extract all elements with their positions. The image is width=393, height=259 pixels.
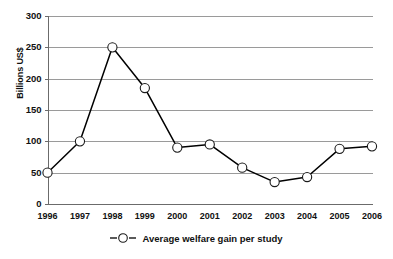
data-point-1998 <box>108 43 117 52</box>
data-point-2004 <box>303 172 312 181</box>
data-point-1997 <box>75 137 84 146</box>
data-point-2002 <box>238 163 247 172</box>
line-chart: Billions US$ 050100150200250300 19961997… <box>0 0 393 259</box>
data-point-1999 <box>140 83 149 92</box>
data-point-2006 <box>367 142 376 151</box>
legend-open-circle-marker-icon <box>110 232 136 244</box>
data-point-2001 <box>205 140 214 149</box>
legend-label: Average welfare gain per study <box>142 233 282 244</box>
data-point-2005 <box>335 144 344 153</box>
chart-legend: Average welfare gain per study <box>0 232 393 244</box>
data-point-2003 <box>270 177 279 186</box>
series-line-0 <box>48 47 373 182</box>
data-point-2000 <box>173 143 182 152</box>
plot-area <box>0 0 393 259</box>
data-point-1996 <box>43 168 52 177</box>
